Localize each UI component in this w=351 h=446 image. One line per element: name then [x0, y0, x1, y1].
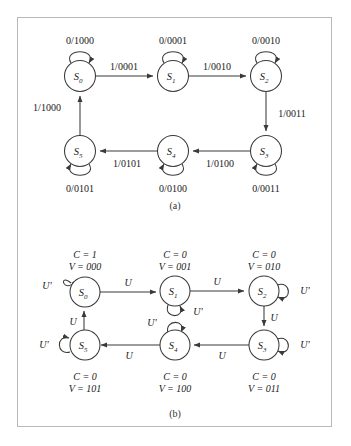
loop-label-s1-b: U'	[193, 306, 203, 317]
edge-label-s5-s0: 1/1000	[33, 102, 61, 113]
self-loop-s1-b	[167, 305, 181, 316]
loop-label-s5-a: 0/0101	[66, 183, 94, 194]
edge-label-s0-s1-b: U	[124, 277, 132, 288]
state-diagram-figure: S0 S1 S2 S3 S4 S5 0/1000 0/0001 0/0010 0…	[0, 0, 351, 446]
panel-a-state-labels: S0 S1 S2 S3 S4 S5	[74, 71, 269, 160]
output-v-s1-b: V = 001	[159, 261, 192, 272]
loop-label-s2-b: U'	[300, 285, 310, 296]
loop-label-s4-b: U'	[147, 317, 157, 328]
edge-label-s1-s2: 1/0010	[203, 61, 231, 72]
loop-label-s2-a: 0/0010	[252, 35, 280, 46]
figure-root: S0 S1 S2 S3 S4 S5 0/1000 0/0001 0/0010 0…	[0, 0, 351, 446]
loop-label-s0-b: U'	[42, 280, 52, 291]
output-v-s0-b: V = 000	[69, 261, 102, 272]
output-c-s0-b: C = 1	[73, 249, 96, 260]
edge-label-s1-s2-b: U	[213, 276, 221, 287]
self-loop-s5-b	[59, 338, 70, 353]
output-v-s3-b: V = 011	[248, 383, 280, 394]
output-v-s4-b: V = 100	[159, 383, 192, 394]
loop-label-s0-a: 0/1000	[66, 35, 94, 46]
output-c-s2-b: C = 0	[252, 249, 275, 260]
caption-b: (b)	[169, 408, 181, 420]
panel-b-state-labels: S0 S1 S2 S3 S4 S5	[79, 286, 267, 354]
edge-label-s4-s5-b: U	[125, 350, 133, 361]
edge-label-s2-s3-b: U	[270, 312, 278, 323]
panel-a: S0 S1 S2 S3 S4 S5 0/1000 0/0001 0/0010 0…	[33, 35, 306, 212]
panel-b: S0 S1 S2 S3 S4 S5 U' U' U' U' U' U' U U …	[39, 249, 310, 420]
panel-a-loop-labels: 0/1000 0/0001 0/0010 0/0011 0/0100 0/010…	[66, 35, 280, 194]
loop-label-s4-a: 0/0100	[159, 183, 187, 194]
output-c-s4-b: C = 0	[163, 371, 186, 382]
output-v-s5-b: V = 101	[69, 383, 102, 394]
output-c-s3-b: C = 0	[252, 371, 275, 382]
loop-label-s5-b: U'	[39, 339, 49, 350]
edge-label-s5-s0-b: U	[69, 316, 77, 327]
panel-b-output-labels: C = 1 V = 000 C = 0 V = 001 C = 0 V = 01…	[69, 249, 281, 394]
loop-label-s1-a: 0/0001	[159, 35, 187, 46]
edge-label-s0-s1: 1/0001	[110, 61, 138, 72]
caption-a: (a)	[169, 200, 180, 212]
loop-label-s3-b: U'	[300, 339, 310, 350]
loop-label-s3-a: 0/0011	[252, 183, 279, 194]
edge-label-s3-s4-b: U	[218, 350, 226, 361]
edge-label-s3-s4: 1/0100	[206, 158, 234, 169]
edge-label-s2-s3: 1/0011	[278, 108, 305, 119]
output-v-s2-b: V = 010	[248, 261, 281, 272]
edge-label-s4-s5: 1/0101	[113, 158, 141, 169]
output-c-s1-b: C = 0	[163, 249, 186, 260]
output-c-s5-b: C = 0	[73, 371, 96, 382]
